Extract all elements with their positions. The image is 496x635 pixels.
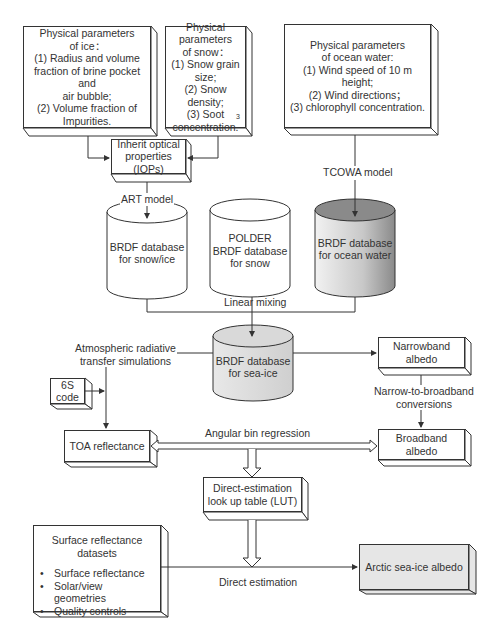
- snow-line-2: of snow：: [182, 46, 228, 59]
- snow-line-1: Physical parameters: [170, 21, 241, 46]
- snow-line-6: concentration.: [173, 121, 239, 134]
- db-polder-line-3: for snow: [213, 257, 288, 270]
- surface-bullet: Surface reflectance: [38, 567, 156, 580]
- db-sea-ice-line-2: for sea-ice: [216, 367, 291, 380]
- iops-line-1: Inherit optical: [117, 138, 179, 151]
- db-ocean-line-2: for ocean water: [318, 249, 393, 262]
- snow-line-3: (1) Snow grain size;: [170, 58, 241, 83]
- narrow-to-broadband-label: Narrow-to-broadband conversions: [373, 385, 475, 410]
- snow-footnote: 3: [236, 113, 240, 120]
- six-s-line-1: 6S: [61, 379, 74, 392]
- db-ocean-line-1: BRDF database: [318, 237, 393, 250]
- db-polder-line-1: POLDER: [213, 232, 288, 245]
- atm-rt-label: Atmospheric radiative transfer simulatio…: [74, 342, 177, 367]
- lut-line-2: look up table (LUT): [208, 495, 297, 508]
- brdf-snow-ice-database: BRDF database for snow/ice: [107, 212, 187, 288]
- iops-box: Inherit optical properties (IOPs): [111, 139, 186, 174]
- tcowa-model-label: TCOWA model: [322, 166, 394, 179]
- snow-parameters-box: Physical parameters of snow： (1) Snow gr…: [165, 26, 246, 128]
- brdf-sea-ice-database: BRDF database for sea-ice: [213, 336, 293, 392]
- snow-line-4: (2) Snow density;: [170, 83, 241, 108]
- narrowband-albedo-box: Narrowband albedo: [378, 337, 465, 368]
- angular-bin-label: Angular bin regression: [204, 427, 311, 440]
- lut-box: Direct-estimation look up table (LUT): [203, 477, 302, 512]
- ice-line-2: of ice：: [69, 40, 104, 53]
- ocean-line-6: (3) chlorophyll concentration.: [290, 101, 425, 114]
- surface-bullet: Quality controls: [38, 605, 156, 618]
- ice-line-6: (2) Volume fraction of: [37, 102, 137, 115]
- arctic-sea-ice-albedo-box: Arctic sea-ice albedo: [359, 544, 469, 590]
- db-sea-ice-line-1: BRDF database: [216, 355, 291, 368]
- ocean-line-2: of ocean water:: [322, 51, 394, 64]
- ocean-line-5: (2) Wind directions；: [309, 89, 407, 102]
- direct-estimation-label: Direct estimation: [218, 576, 298, 589]
- surface-line-1: Surface reflectance: [52, 534, 142, 547]
- ntb-line-1: Narrow-to-broadband: [374, 385, 474, 398]
- toa-reflectance-box: TOA reflectance: [64, 430, 150, 462]
- db-polder-line-2: BRDF database: [213, 245, 288, 258]
- brdf-ocean-database: BRDF database for ocean water: [315, 210, 395, 282]
- art-model-label: ART model: [120, 193, 174, 206]
- atm-rt-line-1: Atmospheric radiative: [75, 342, 176, 355]
- ice-line-4: fraction of brine pocket and: [28, 65, 146, 90]
- broadband-line-2: albedo: [406, 445, 438, 458]
- polder-brdf-database: POLDER BRDF database for snow: [210, 210, 290, 286]
- surface-line-2: datasets: [77, 547, 117, 560]
- snow-line-5: (3) Soot: [187, 108, 224, 121]
- ntb-line-2: conversions: [374, 398, 474, 411]
- output-line-1: Arctic sea-ice albedo: [365, 561, 462, 574]
- surface-reflectance-box: Surface reflectance datasets Surface ref…: [33, 525, 161, 612]
- linear-mixing-label: Linear mixing: [223, 296, 287, 309]
- ocean-line-1: Physical parameters: [310, 39, 405, 52]
- broadband-line-1: Broadband: [396, 432, 447, 445]
- lut-line-1: Direct-estimation: [213, 482, 292, 495]
- six-s-line-2: code: [56, 391, 79, 404]
- ice-line-3: (1) Radius and volume: [34, 52, 140, 65]
- ice-line-5: air bubble;: [62, 90, 111, 103]
- ice-line-1: Physical parameters: [39, 27, 134, 40]
- ice-line-7: Impurities.: [63, 115, 111, 128]
- db-snow-ice-line-2: for snow/ice: [110, 253, 185, 266]
- surface-bullet: Solar/view geometries: [38, 580, 156, 605]
- db-snow-ice-line-1: BRDF database: [110, 241, 185, 254]
- six-s-code-box: 6S code: [50, 378, 85, 404]
- ocean-line-3: (1) Wind speed of 10 m: [303, 64, 412, 77]
- broadband-albedo-box: Broadband albedo: [378, 429, 465, 460]
- ocean-parameters-box: Physical parameters of ocean water: (1) …: [284, 24, 431, 128]
- atm-rt-line-2: transfer simulations: [75, 355, 176, 368]
- toa-line-1: TOA reflectance: [69, 440, 144, 453]
- narrowband-line-2: albedo: [406, 353, 438, 366]
- narrowband-line-1: Narrowband: [393, 340, 450, 353]
- iops-line-2: properties: [125, 150, 172, 163]
- ice-parameters-box: Physical parameters of ice： (1) Radius a…: [23, 26, 151, 128]
- ocean-line-4: height;: [342, 76, 374, 89]
- iops-line-3: (IOPs): [133, 163, 163, 176]
- surface-bullet-list: Surface reflectance Solar/view geometrie…: [38, 567, 156, 617]
